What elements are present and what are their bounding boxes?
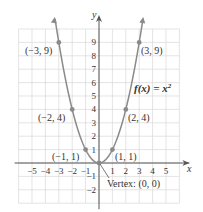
y-tick-label: −2 <box>86 185 96 195</box>
x-tick-label: 1 <box>110 166 115 176</box>
x-tick-label: −4 <box>41 166 51 176</box>
data-point <box>83 147 88 152</box>
point-label-3-9: (3, 9) <box>141 45 163 57</box>
curve-arrow-icon <box>139 17 145 23</box>
x-tick-label: −3 <box>54 166 64 176</box>
point-label-1-1: (1, 1) <box>115 151 137 163</box>
y-tick-label: 7 <box>92 64 97 74</box>
function-label-exponent: 2 <box>167 82 172 90</box>
y-tick-label: 2 <box>92 131 97 141</box>
x-tick-label: −2 <box>67 166 77 176</box>
vertex-label: Vertex: (0, 0) <box>107 178 160 190</box>
y-tick-label: 5 <box>92 91 97 101</box>
point-label-neg3-9: (−3, 9) <box>25 45 52 57</box>
point-label-neg2-4: (−2, 4) <box>38 112 65 124</box>
function-label-base: f(x) = x <box>134 82 168 95</box>
x-tick-label: −5 <box>27 166 37 176</box>
x-tick-label: 2 <box>124 166 129 176</box>
y-tick-label: 9 <box>92 37 97 47</box>
y-axis-label: y <box>91 9 97 20</box>
y-tick-label: 6 <box>92 78 97 88</box>
data-point <box>56 40 61 45</box>
y-tick-label: 8 <box>92 51 97 61</box>
x-tick-label: 3 <box>137 166 142 176</box>
point-label-neg1-1: (−1, 1) <box>52 151 79 163</box>
y-tick-label: 4 <box>92 104 97 114</box>
x-axis-label: x <box>186 163 192 174</box>
vertex-leader-line <box>100 164 109 178</box>
x-tick-label: 5 <box>164 166 169 176</box>
x-tick-label: 4 <box>150 166 155 176</box>
function-label: f(x) = x2 <box>134 82 172 95</box>
y-tick-label: 3 <box>92 118 97 128</box>
y-tick-label: 1 <box>92 145 97 155</box>
point-label-2-4: (2, 4) <box>128 112 150 124</box>
data-point <box>70 107 75 112</box>
parabola-chart: −5−4−3−2−112345−2−1123456789 y x (−3, 9)… <box>0 0 203 212</box>
y-tick-label: −1 <box>86 171 96 181</box>
